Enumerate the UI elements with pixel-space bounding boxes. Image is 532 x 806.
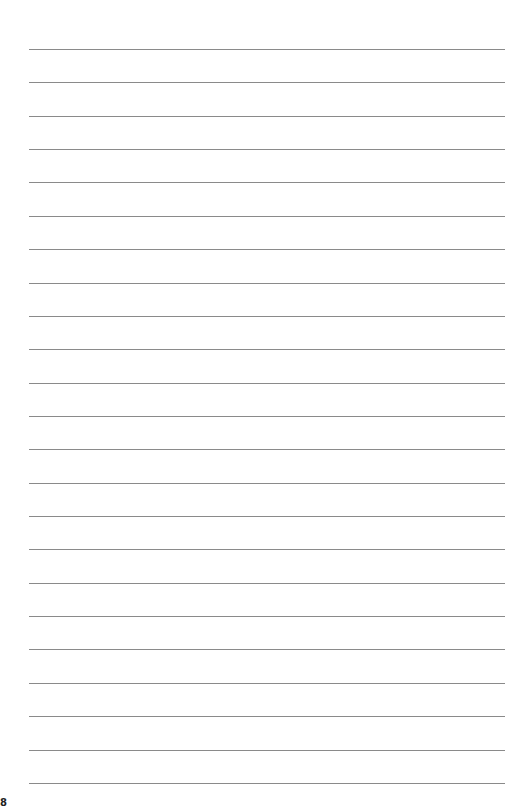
- ruled-line: [29, 649, 505, 650]
- ruled-line: [29, 349, 505, 350]
- ruled-line: [29, 549, 505, 550]
- ruled-line: [29, 82, 505, 83]
- ruled-line: [29, 116, 505, 117]
- page-number: 8: [0, 798, 7, 806]
- ruled-line: [29, 716, 505, 717]
- ruled-line: [29, 516, 505, 517]
- ruled-line: [29, 283, 505, 284]
- ruled-line: [29, 216, 505, 217]
- ruled-line: [29, 149, 505, 150]
- ruled-line: [29, 750, 505, 751]
- ruled-line: [29, 616, 505, 617]
- ruled-line: [29, 783, 505, 784]
- ruled-line: [29, 182, 505, 183]
- ruled-line: [29, 583, 505, 584]
- ruled-line: [29, 483, 505, 484]
- ruled-line: [29, 316, 505, 317]
- ruled-line: [29, 416, 505, 417]
- ruled-line: [29, 683, 505, 684]
- ruled-line: [29, 249, 505, 250]
- ruled-line: [29, 383, 505, 384]
- ruled-line: [29, 449, 505, 450]
- ruled-line: [29, 49, 505, 50]
